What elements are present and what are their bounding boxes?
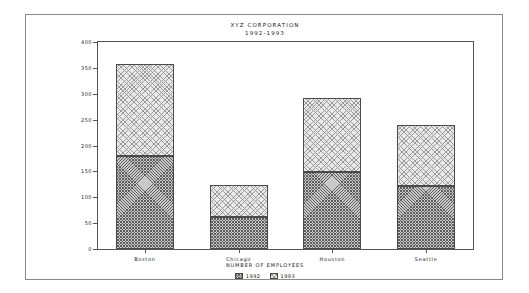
legend-item-1993: 1993 — [270, 273, 296, 279]
y-axis-tick — [93, 68, 98, 69]
bar-segment-seattle-1993 — [397, 125, 455, 186]
legend-swatch-1993-icon — [270, 273, 278, 279]
x-axis-title: NUMBER OF EMPLOYEES — [26, 262, 504, 268]
x-axis-tick — [426, 249, 427, 253]
y-axis-label: 50 — [85, 220, 92, 226]
bar-segment-chicago-1993 — [210, 185, 268, 217]
chart-title-block: XYZ CORPORATION 1992-1993 — [26, 21, 504, 37]
y-axis-tick — [93, 249, 98, 250]
y-axis-tick — [93, 197, 98, 198]
x-axis-tick — [239, 249, 240, 253]
y-axis-tick — [93, 146, 98, 147]
bar-group-seattle — [397, 42, 455, 249]
chart-title: XYZ CORPORATION — [26, 21, 504, 29]
bar-segment-boston-1993 — [116, 64, 174, 156]
y-axis-label: 350 — [81, 65, 92, 71]
y-axis-label: 150 — [81, 168, 92, 174]
chart-legend: 1992 1993 — [26, 273, 504, 279]
bar-group-houston — [303, 42, 361, 249]
y-axis-tick — [93, 223, 98, 224]
chart-subtitle: 1992-1993 — [26, 29, 504, 37]
bar-segment-houston-1993 — [303, 98, 361, 173]
y-axis-tick — [93, 171, 98, 172]
legend-label-1992: 1992 — [246, 273, 261, 279]
plot-area: 050100150200250300350400 BostonChicagoHo… — [97, 41, 474, 250]
y-axis-label: 0 — [88, 246, 92, 252]
y-axis-label: 400 — [81, 39, 92, 45]
x-axis-tick — [332, 249, 333, 253]
bar-group-boston — [116, 42, 174, 249]
bar-group-chicago — [210, 42, 268, 249]
y-axis-tick — [93, 94, 98, 95]
y-axis-tick — [93, 120, 98, 121]
y-axis-label: 300 — [81, 91, 92, 97]
bar-segment-houston-1992 — [303, 172, 361, 249]
y-axis-label: 250 — [81, 117, 92, 123]
bar-segment-chicago-1992 — [210, 217, 268, 249]
y-axis-tick — [93, 42, 98, 43]
page-border: XYZ CORPORATION 1992-1993 05010015020025… — [25, 14, 503, 280]
bar-segment-boston-1992 — [116, 156, 174, 249]
y-axis-label: 100 — [81, 194, 92, 200]
bar-segment-seattle-1992 — [397, 186, 455, 249]
legend-label-1993: 1993 — [281, 273, 296, 279]
y-axis-label: 200 — [81, 143, 92, 149]
x-axis-tick — [145, 249, 146, 253]
legend-item-1992: 1992 — [235, 273, 261, 279]
legend-swatch-1992-icon — [235, 273, 243, 279]
chart-screenshot: XYZ CORPORATION 1992-1993 05010015020025… — [0, 0, 529, 293]
